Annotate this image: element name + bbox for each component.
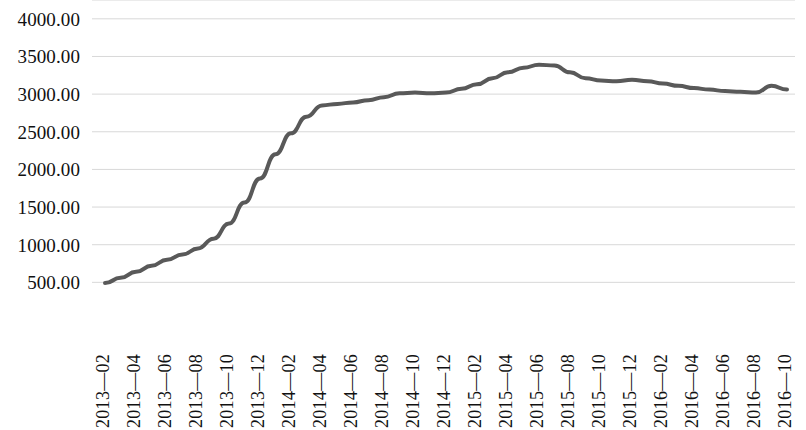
y-tick-label: 3000.00: [18, 85, 80, 104]
x-tick-label: 2015—10: [590, 354, 608, 428]
x-tick-label: 2014—04: [311, 354, 329, 428]
x-tick-label: 2015—08: [559, 354, 577, 428]
y-tick-label: 1500.00: [18, 198, 80, 217]
line-chart: 4000.003500.003000.002500.002000.001500.…: [0, 0, 806, 430]
x-tick-label: 2016—02: [652, 354, 670, 428]
plot-svg: [92, 0, 795, 320]
x-tick-label: 2014—02: [280, 354, 298, 428]
x-tick-label: 2016—04: [683, 354, 701, 428]
y-tick-label: 4000.00: [18, 9, 80, 28]
y-tick-label: 2500.00: [18, 122, 80, 141]
y-axis: 4000.003500.003000.002500.002000.001500.…: [0, 0, 88, 320]
gridlines: [92, 0, 795, 282]
x-tick-label: 2013—02: [94, 354, 112, 428]
x-tick-label: 2014—10: [404, 354, 422, 428]
y-tick-label: 3500.00: [18, 47, 80, 66]
x-tick-label: 2016—06: [714, 354, 732, 428]
x-tick-label: 2013—06: [156, 354, 174, 428]
y-tick-label: 1000.00: [18, 235, 80, 254]
y-tick-label: 2000.00: [18, 160, 80, 179]
plot-area: [92, 0, 795, 320]
x-tick-label: 2013—08: [187, 354, 205, 428]
x-tick-label: 2015—06: [528, 354, 546, 428]
data-series-line: [105, 65, 787, 283]
x-tick-label: 2013—04: [125, 354, 143, 428]
x-tick-label: 2014—06: [342, 354, 360, 428]
x-axis: 2013—022013—042013—062013—082013—102013—…: [0, 324, 806, 430]
y-tick-label: 500.00: [27, 273, 80, 292]
x-tick-label: 2013—10: [218, 354, 236, 428]
x-tick-label: 2016—08: [745, 354, 763, 428]
x-tick-label: 2015—12: [621, 354, 639, 428]
x-tick-label: 2015—04: [497, 354, 515, 428]
x-tick-label: 2015—02: [466, 354, 484, 428]
x-tick-label: 2014—08: [373, 354, 391, 428]
x-tick-label: 2013—12: [249, 354, 267, 428]
x-tick-label: 2016—10: [776, 354, 794, 428]
x-tick-label: 2014—12: [435, 354, 453, 428]
